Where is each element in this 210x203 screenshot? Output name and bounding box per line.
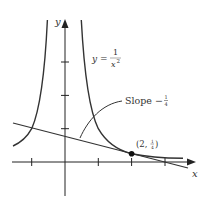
tangent-point <box>129 151 135 157</box>
svg-text:4: 4 <box>151 145 154 150</box>
svg-text:1: 1 <box>151 139 154 144</box>
svg-text:1: 1 <box>113 48 118 57</box>
tangent-line <box>13 123 188 168</box>
y-axis-label: y <box>54 16 61 27</box>
y-axis-arrow-icon <box>62 19 69 28</box>
svg-text:4: 4 <box>165 101 168 107</box>
svg-text:2: 2 <box>117 58 121 64</box>
svg-text:1: 1 <box>165 94 168 100</box>
svg-text:Slope −: Slope − <box>125 95 163 106</box>
x-axis-label: x <box>192 168 198 179</box>
point-label: (2, 1 4 ) <box>136 139 158 150</box>
curve-equation-label: y = 1 x 2 <box>91 48 121 69</box>
graph: x y y = 1 x 2 Slope − 1 4 (2, 1 4 ) <box>0 0 210 203</box>
axes <box>12 24 192 196</box>
svg-text:x: x <box>111 60 116 69</box>
x-axis-arrow-icon <box>187 159 196 166</box>
svg-text:y =: y = <box>91 54 108 64</box>
slope-label: Slope − 1 4 <box>125 94 168 107</box>
svg-text:): ) <box>155 139 158 149</box>
curve-right-branch <box>81 20 183 158</box>
svg-text:(2,: (2, <box>136 139 147 149</box>
